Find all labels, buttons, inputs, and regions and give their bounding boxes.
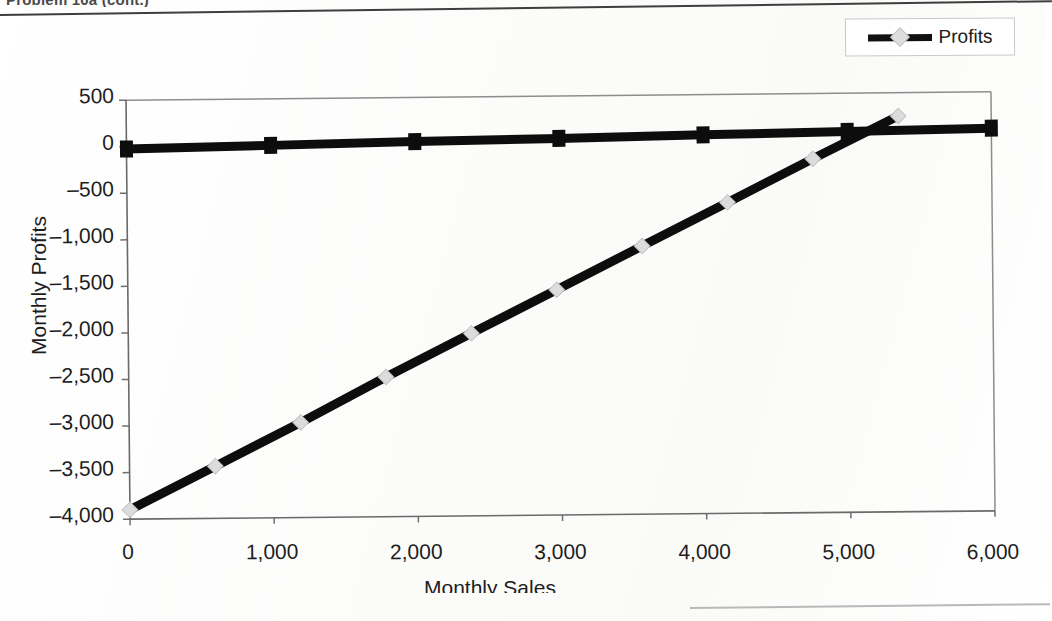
x-tick-label: 1,000 xyxy=(246,540,299,564)
y-tick-label: –1,000 xyxy=(50,224,114,248)
x-tick-label: 0 xyxy=(122,540,134,563)
x-tick-label: 3,000 xyxy=(534,540,587,564)
y-tick-label: 500 xyxy=(79,84,114,107)
x-axis-tick-labels: 01,0002,0003,0004,0005,0006,000 xyxy=(122,540,1019,564)
plot-frame xyxy=(126,92,995,519)
series-2 xyxy=(120,120,998,158)
y-tick-label: 0 xyxy=(102,131,114,154)
data-point-square xyxy=(552,130,565,147)
data-point-square xyxy=(985,120,998,137)
data-point-square xyxy=(408,133,421,150)
y-tick-label: –3,000 xyxy=(50,410,114,434)
y-tick-label: –4,000 xyxy=(50,503,114,527)
y-tick-label: –2,500 xyxy=(50,363,114,387)
y-tick-label: –500 xyxy=(67,177,114,200)
x-axis-title-clip: Monthly Sales xyxy=(424,576,624,593)
y-tick-label: –3,500 xyxy=(50,456,114,480)
y-tick-label: –1,500 xyxy=(50,270,114,294)
data-point-square xyxy=(120,140,133,157)
y-axis-title-group: Monthly Profits xyxy=(27,216,50,355)
y-axis-title: Monthly Profits xyxy=(27,216,50,355)
data-point-square xyxy=(841,123,854,140)
x-tick-label: 2,000 xyxy=(390,540,443,564)
data-point-square xyxy=(264,137,277,154)
axis-ticks xyxy=(119,92,995,525)
data-series-group xyxy=(118,107,1001,517)
x-tick-label: 6,000 xyxy=(967,540,1020,564)
x-tick-label: 5,000 xyxy=(822,540,875,564)
y-tick-label: –2,000 xyxy=(50,317,114,341)
y-axis-tick-labels: 5000–500–1,000–1,500–2,000–2,500–3,000–3… xyxy=(50,84,114,527)
x-tick-label: 4,000 xyxy=(678,540,731,564)
x-axis-title: Monthly Sales xyxy=(424,576,624,593)
series-1 xyxy=(118,108,909,517)
data-point-square xyxy=(696,126,709,143)
